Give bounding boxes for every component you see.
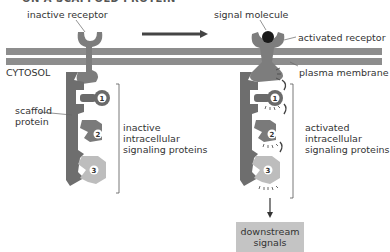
svg-text:2: 2 [270, 131, 275, 139]
protein-2-left: 2 [80, 120, 103, 142]
svg-text:1: 1 [100, 95, 105, 103]
label-scaffold: scaffold [15, 105, 52, 116]
protein-3-right: 3 [252, 156, 280, 184]
label-signal-molecule: signal molecule [214, 9, 288, 20]
svg-text:3: 3 [92, 167, 97, 175]
signal-molecule [262, 31, 274, 43]
protein-1-left: 1 [80, 90, 110, 106]
bracket-activated [290, 84, 293, 198]
svg-text:3: 3 [266, 167, 271, 175]
label-activated-receptor: activated receptor [298, 32, 386, 43]
label-inactive-1: inactive [123, 122, 161, 133]
label-protein: protein [15, 116, 49, 127]
label-plasma-membrane: plasma membrane [299, 67, 389, 78]
scaffold-protein-left [66, 72, 84, 186]
protein-2-right: 2 [254, 120, 277, 142]
svg-text:1: 1 [273, 95, 278, 103]
downstream-arrow [267, 198, 273, 218]
protein-1-right: 1 [254, 90, 283, 106]
label-inactive-receptor: inactive receptor [27, 9, 108, 20]
downstream-line-2: signals [241, 237, 300, 248]
label-activated-2: intracellular [305, 133, 362, 144]
downstream-line-1: downstream [241, 226, 300, 237]
bracket-inactive [116, 84, 119, 193]
label-inactive-3: signaling proteins [123, 144, 208, 155]
label-inactive-2: intracellular [123, 133, 180, 144]
scaffold-protein-right [240, 72, 258, 186]
label-activated-1: activated [305, 122, 349, 133]
label-activated-3: signaling proteins [305, 144, 390, 155]
svg-text:2: 2 [96, 131, 101, 139]
plasma-membrane [6, 48, 382, 65]
transition-arrow [142, 30, 208, 38]
protein-3-left: 3 [78, 156, 106, 184]
label-cytosol: CYTOSOL [6, 67, 50, 78]
downstream-signals-box: downstream signals [236, 222, 304, 252]
